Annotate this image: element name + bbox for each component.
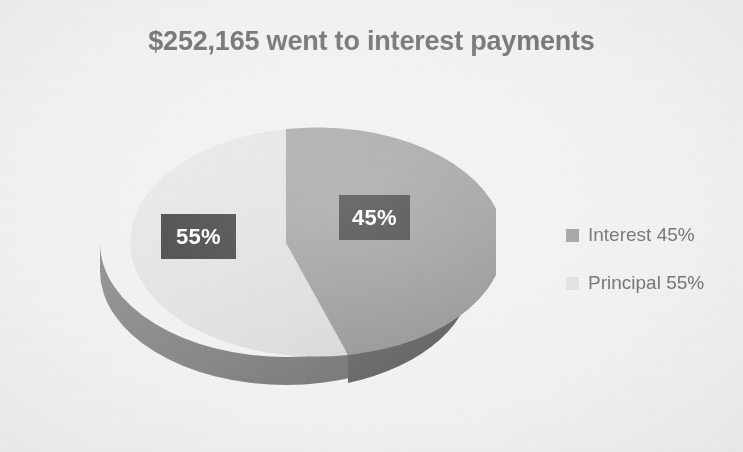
data-label-interest-text: 45% <box>352 205 397 231</box>
legend-item-principal[interactable]: Principal 55% <box>566 270 738 296</box>
legend-swatch-interest <box>566 229 579 242</box>
pie-chart-slide: $252,165 went to interest payments <box>0 0 743 452</box>
legend-item-interest[interactable]: Interest 45% <box>566 222 738 248</box>
legend-label-interest: Interest 45% <box>588 224 695 246</box>
data-label-interest: 45% <box>339 195 410 240</box>
chart-legend: Interest 45% Principal 55% <box>566 222 738 318</box>
data-label-principal-text: 55% <box>176 224 221 250</box>
pie-chart-graphic <box>86 84 496 414</box>
legend-swatch-principal <box>566 277 579 290</box>
pie-svg <box>86 84 496 414</box>
data-label-principal: 55% <box>161 214 236 259</box>
chart-title: $252,165 went to interest payments <box>0 26 743 57</box>
legend-label-principal: Principal 55% <box>588 272 704 294</box>
